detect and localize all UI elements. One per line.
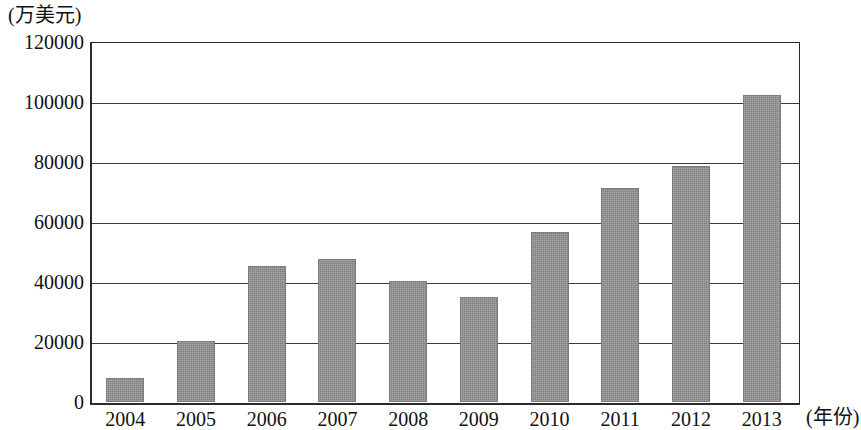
y-tick-label: 80000 (34, 152, 84, 172)
bar-2004 (106, 378, 144, 402)
y-tick-label: 40000 (34, 272, 84, 292)
y-axis-unit-label: (万美元) (8, 2, 81, 28)
bar-2013 (743, 95, 781, 402)
bar-2005 (177, 341, 215, 403)
x-tick-label: 2007 (297, 408, 377, 430)
x-tick-label: 2011 (580, 408, 660, 430)
y-tick-label: 120000 (24, 32, 84, 52)
bar-2008 (389, 281, 427, 402)
bar-2011 (601, 188, 639, 403)
x-tick-label: 2006 (227, 408, 307, 430)
x-tick-label: 2013 (722, 408, 802, 430)
x-tick-label: 2012 (651, 408, 731, 430)
bar-2009 (460, 297, 498, 402)
y-tick-label: 0 (74, 392, 84, 412)
x-axis-unit-label: (年份) (806, 405, 859, 429)
y-tick-label: 100000 (24, 92, 84, 112)
bar-2012 (672, 166, 710, 402)
bars-layer (90, 42, 797, 402)
bar-2010 (531, 232, 569, 402)
y-tick-label: 20000 (34, 332, 84, 352)
x-tick-label: 2005 (156, 408, 236, 430)
x-tick-label: 2004 (85, 408, 165, 430)
y-tick-label: 60000 (34, 212, 84, 232)
x-tick-label: 2010 (510, 408, 590, 430)
x-tick-label: 2009 (439, 408, 519, 430)
bar-2007 (318, 259, 356, 402)
bar-2006 (248, 266, 286, 402)
x-tick-label: 2008 (368, 408, 448, 430)
